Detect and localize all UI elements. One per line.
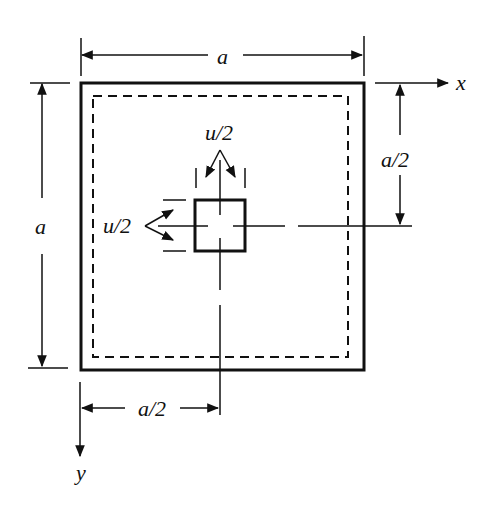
center-lines	[158, 160, 412, 415]
top-dimension-label: a	[217, 44, 228, 69]
bottom-half-dimension-label: a/2	[138, 396, 166, 421]
left-dimension-label: a	[35, 214, 46, 239]
right-half-dimension-label: a/2	[381, 147, 409, 172]
plate-diagram: a a x a/2 y a/2 u/2 u/2	[0, 0, 498, 511]
left-load-width-label: u/2	[103, 213, 131, 238]
y-axis-label: y	[74, 460, 86, 485]
top-load-width-label: u/2	[205, 120, 233, 145]
x-axis-label: x	[455, 70, 466, 95]
